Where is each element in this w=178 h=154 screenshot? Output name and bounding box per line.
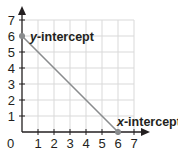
coordinate-plane: 12345671234567 0 y-intercept x-intercept	[0, 0, 178, 154]
x-tick-label: 5	[98, 136, 105, 151]
intercept-point-icon	[115, 129, 121, 135]
x-intercept-annotation: x-intercept	[116, 115, 178, 129]
x-intercept-text: -intercept	[124, 115, 178, 129]
y-tick-label: 1	[8, 109, 15, 124]
y-axis-arrow-icon	[18, 6, 26, 15]
y-tick-label: 5	[8, 45, 15, 60]
x-tick-label: 1	[34, 136, 41, 151]
y-intercept-text: -intercept	[37, 30, 95, 44]
y-tick-label: 2	[8, 93, 15, 108]
y-tick-label: 4	[8, 61, 15, 76]
intercept-point-icon	[19, 33, 25, 39]
y-intercept-annotation: y-intercept	[29, 30, 95, 44]
y-tick-label: 3	[8, 77, 15, 92]
x-tick-label: 7	[130, 136, 137, 151]
x-tick-label: 2	[50, 136, 57, 151]
x-axis-arrow-icon	[141, 128, 150, 136]
x-tick-label: 6	[114, 136, 121, 151]
x-tick-label: 4	[82, 136, 89, 151]
y-tick-label: 6	[8, 29, 15, 44]
y-tick-label: 7	[8, 13, 15, 28]
x-tick-label: 3	[66, 136, 73, 151]
origin-label: 0	[7, 136, 14, 151]
